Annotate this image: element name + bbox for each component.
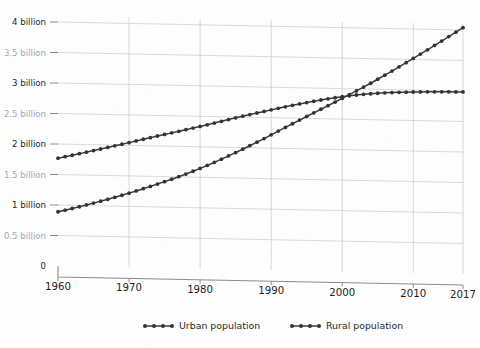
data-point-marker [134, 189, 138, 193]
data-point-marker [291, 103, 295, 107]
population-line-chart: 4 billion3.5 billion3 billion2.5 billion… [0, 0, 480, 348]
y-axis-label: 1 billion [12, 200, 46, 210]
data-point-marker [85, 150, 89, 154]
data-point-marker [148, 185, 152, 189]
data-point-marker [77, 152, 81, 156]
data-point-marker [241, 114, 245, 118]
data-point-marker [426, 90, 430, 94]
y-axis-label: 2.5 billion [4, 109, 46, 119]
data-point-marker [319, 107, 323, 111]
x-axis-label: 2017 [450, 289, 476, 300]
data-point-marker [319, 98, 323, 102]
legend-marker-dot [317, 324, 321, 328]
data-point-marker [198, 167, 202, 171]
data-point-marker [347, 94, 351, 98]
data-point-marker [411, 57, 415, 61]
data-point-marker [198, 125, 202, 129]
data-point-marker [70, 207, 74, 211]
x-axis-label: 2000 [329, 287, 355, 298]
x-axis-label: 2010 [400, 288, 426, 299]
data-point-marker [447, 35, 451, 39]
data-point-marker [397, 90, 401, 94]
data-point-marker [85, 203, 89, 207]
data-point-marker [440, 90, 444, 94]
data-point-marker [383, 73, 387, 77]
data-point-marker [269, 133, 273, 137]
legend-marker-dot [299, 324, 303, 328]
data-point-marker [248, 144, 252, 148]
data-point-marker [390, 69, 394, 73]
data-point-marker [305, 101, 309, 105]
data-point-marker [312, 99, 316, 103]
data-point-marker [312, 111, 316, 115]
data-point-marker [355, 93, 359, 97]
data-point-marker [461, 26, 465, 30]
data-point-marker [362, 85, 366, 89]
data-point-marker [156, 134, 160, 138]
legend-label: Rural population [326, 320, 403, 331]
data-point-marker [127, 141, 131, 145]
data-point-marker [191, 169, 195, 173]
data-point-marker [298, 118, 302, 122]
data-point-marker [411, 90, 415, 94]
data-point-marker [170, 177, 174, 181]
data-point-marker [461, 90, 465, 94]
legend-marker-dot [308, 324, 312, 328]
legend-marker-dot [170, 324, 174, 328]
data-point-marker [113, 195, 117, 199]
data-point-marker [227, 118, 231, 122]
data-point-marker [56, 210, 60, 214]
legend-label: Urban population [179, 320, 260, 331]
y-axis-label: 2 billion [12, 139, 46, 149]
data-point-marker [397, 65, 401, 69]
data-point-marker [355, 89, 359, 93]
data-point-marker [262, 110, 266, 114]
chart-container: 4 billion3.5 billion3 billion2.5 billion… [0, 0, 480, 348]
data-point-marker [433, 90, 437, 94]
data-point-marker [383, 91, 387, 95]
data-point-marker [340, 95, 344, 99]
data-point-marker [163, 180, 167, 184]
data-point-marker [212, 121, 216, 125]
data-point-marker [205, 164, 209, 168]
y-axis-label: 4 billion [12, 17, 46, 27]
data-point-marker [163, 133, 167, 137]
data-point-marker [440, 39, 444, 43]
data-point-marker [255, 140, 259, 144]
data-point-marker [326, 104, 330, 108]
data-point-marker [220, 119, 224, 123]
data-point-marker [241, 147, 245, 151]
data-point-marker [63, 155, 67, 159]
data-point-marker [205, 123, 209, 127]
data-point-marker [454, 30, 458, 34]
data-point-marker [184, 128, 188, 132]
data-point-marker [106, 146, 110, 150]
data-point-marker [191, 126, 195, 130]
data-point-marker [404, 61, 408, 65]
data-point-marker [92, 149, 96, 153]
data-point-marker [362, 92, 366, 96]
data-point-marker [227, 154, 231, 158]
x-axis-label: 1980 [187, 284, 213, 295]
data-point-marker [177, 175, 181, 179]
data-point-marker [262, 137, 266, 141]
y-axis-label: 3.5 billion [4, 48, 46, 58]
data-point-marker [234, 151, 238, 155]
data-point-marker [220, 157, 224, 161]
data-point-marker [283, 126, 287, 130]
data-point-marker [326, 97, 330, 101]
data-point-marker [56, 156, 60, 160]
legend-marker-dot [152, 324, 156, 328]
data-point-marker [212, 160, 216, 164]
data-point-marker [248, 113, 252, 117]
data-point-marker [454, 90, 458, 94]
data-point-marker [63, 208, 67, 212]
data-point-marker [99, 199, 103, 203]
data-point-marker [333, 100, 337, 104]
data-point-marker [298, 102, 302, 106]
data-point-marker [418, 52, 422, 56]
data-point-marker [369, 81, 373, 85]
legend-marker-dot [143, 324, 147, 328]
data-point-marker [369, 92, 373, 96]
data-point-marker [376, 91, 380, 95]
